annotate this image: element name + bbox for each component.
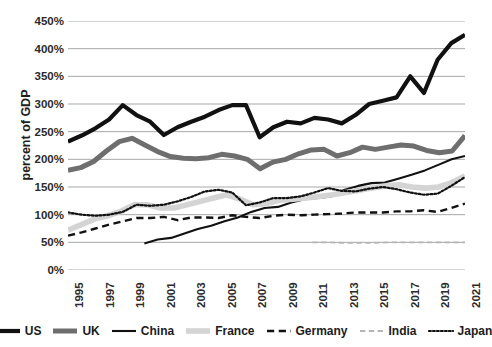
x-axis-tick-labels: 1995199719992001200320052007200920112013…: [68, 272, 465, 316]
series-line-us: [68, 35, 465, 142]
x-tick-label: 2003: [195, 282, 207, 308]
legend-item-uk[interactable]: UK: [52, 324, 99, 338]
y-tick-label: 450%: [14, 15, 64, 27]
legend-item-india[interactable]: India: [359, 324, 417, 338]
x-tick-label: 2017: [409, 282, 421, 308]
legend-swatch-icon: [0, 325, 21, 337]
x-tick-label: 2001: [165, 282, 177, 308]
legend-swatch-icon: [52, 325, 78, 337]
y-tick-label: 400%: [14, 43, 64, 55]
x-tick-label: 2015: [378, 282, 390, 308]
legend-item-france[interactable]: France: [185, 324, 254, 338]
legend-swatch-icon: [111, 325, 137, 337]
y-axis-tick-labels: 450%400%350%300%250%200%150%100%50%0%: [14, 0, 64, 300]
x-tick-label: 1999: [134, 282, 146, 308]
legend-item-japan[interactable]: Japan: [428, 324, 492, 338]
y-tick-label: 0%: [14, 264, 64, 276]
legend-label: UK: [82, 324, 99, 338]
series-line-uk: [68, 136, 465, 171]
plot-area: [68, 21, 465, 270]
legend-label: France: [215, 324, 254, 338]
legend-label: Japan: [458, 324, 492, 338]
legend-swatch-icon: [266, 325, 292, 337]
chart-legend: USUKChinaFranceGermanyIndiaJapan: [0, 318, 487, 344]
x-tick-label: 2011: [317, 283, 329, 308]
legend-label: India: [389, 324, 417, 338]
y-tick-label: 50%: [14, 236, 64, 248]
series-line-france: [68, 176, 465, 230]
x-tick-label: 2009: [287, 282, 299, 308]
legend-label: US: [25, 324, 42, 338]
y-tick-label: 250%: [14, 126, 64, 138]
series-lines: [68, 35, 465, 244]
legend-label: Germany: [296, 324, 348, 338]
plot-svg: [68, 21, 465, 270]
series-line-japan: [68, 177, 465, 216]
x-tick-label: 2013: [348, 282, 360, 308]
legend-swatch-icon: [428, 325, 454, 337]
legend-item-china[interactable]: China: [111, 324, 174, 338]
legend-item-us[interactable]: US: [0, 324, 41, 338]
x-tick-label: 2007: [256, 282, 268, 308]
x-tick-label: 2005: [226, 282, 238, 308]
x-tick-label: 2019: [439, 282, 451, 308]
y-tick-label: 200%: [14, 153, 64, 165]
legend-swatch-icon: [359, 325, 385, 337]
legend-item-germany[interactable]: Germany: [266, 324, 348, 338]
legend-swatch-icon: [185, 325, 211, 337]
y-tick-label: 100%: [14, 209, 64, 221]
y-tick-label: 300%: [14, 98, 64, 110]
y-tick-label: 350%: [14, 70, 64, 82]
x-tick-label: 1995: [73, 282, 85, 308]
legend-label: China: [141, 324, 174, 338]
x-tick-label: 2021: [470, 282, 482, 308]
y-tick-label: 150%: [14, 181, 64, 193]
x-tick-label: 1997: [104, 282, 116, 308]
